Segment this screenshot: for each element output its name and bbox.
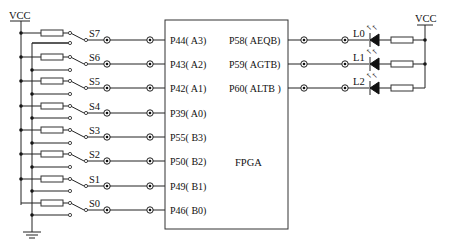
switch-row-s6: S6 <box>19 52 165 72</box>
pin-label: P46( B0) <box>170 205 206 217</box>
fpga-block <box>165 20 288 229</box>
pin-label: P50( B2) <box>170 156 206 168</box>
pin-label: P43( A2) <box>170 59 206 71</box>
svg-text:↖↖: ↖↖ <box>366 24 378 32</box>
switch-row-s0: S0 <box>21 198 165 217</box>
switch-blade-icon <box>72 131 85 138</box>
led-label: L2 <box>353 76 365 87</box>
resistor-icon <box>41 200 63 206</box>
switch-row-s2: S2 <box>19 149 165 169</box>
resistor-icon <box>41 176 63 182</box>
switch-row-s7: S7 <box>19 28 165 43</box>
vcc-right-label: VCC <box>415 13 437 24</box>
led-label: L1 <box>353 52 365 63</box>
resistor-icon <box>391 37 413 43</box>
switch-label: S6 <box>89 52 100 63</box>
switch-row-s3: S3 <box>19 125 165 145</box>
resistor-icon <box>391 85 413 91</box>
pin-label: P42( A1) <box>170 83 206 95</box>
gnd-contact-s7 <box>32 41 72 44</box>
pin-label: P44( A3) <box>170 35 206 47</box>
switch-row-s4: S4 <box>19 101 165 120</box>
ground-icon <box>23 228 41 238</box>
switch-label: S4 <box>89 101 101 112</box>
svg-text:↖↖: ↖↖ <box>366 48 378 56</box>
resistor-icon <box>391 61 413 67</box>
pin-label: P49( B1) <box>170 181 206 193</box>
switch-label: S7 <box>89 28 100 39</box>
pin-label: P55( B3) <box>170 132 206 144</box>
output-pin-label: P60( ALTB ) <box>229 83 281 95</box>
switch-label: S0 <box>89 198 100 209</box>
switch-label: S2 <box>89 149 100 160</box>
output-pin-label: P59( AGTB) <box>229 59 280 71</box>
resistor-icon <box>41 127 63 133</box>
switch-label: S1 <box>89 174 100 185</box>
switch-row-s1: S1 <box>19 174 165 193</box>
led-row-l0: L0 ↖↖ <box>288 24 427 47</box>
switch-blade-icon <box>72 34 85 41</box>
schematic-svg: VCC S7 <box>0 0 450 249</box>
resistor-icon <box>41 30 63 36</box>
resistor-icon <box>41 151 63 157</box>
led-icon: ↖↖ <box>366 24 379 47</box>
resistor-icon <box>41 103 63 109</box>
led-icon: ↖↖ <box>366 72 379 95</box>
switch-blade-icon <box>72 180 85 187</box>
switch-label: S5 <box>89 76 100 87</box>
led-row-l2: L2 ↖↖ <box>288 72 425 95</box>
switch-blade-icon <box>72 58 85 65</box>
pin-label: P39( A0) <box>170 108 206 120</box>
switch-blade-icon <box>72 155 85 162</box>
switch-blade-icon <box>72 82 85 89</box>
switch-blade-icon <box>72 204 85 211</box>
led-label: L0 <box>353 28 365 39</box>
resistor-icon <box>41 78 63 84</box>
fpga-comparator-schematic: VCC S7 <box>0 0 450 249</box>
resistor-icon <box>41 54 63 60</box>
vcc-left-label: VCC <box>9 10 31 21</box>
svg-text:↖↖: ↖↖ <box>366 72 378 80</box>
switch-row-s5: S5 <box>19 76 165 96</box>
fpga-title: FPGA <box>235 157 262 168</box>
led-icon: ↖↖ <box>366 48 379 71</box>
output-pin-label: P58( AEQB) <box>229 35 280 47</box>
switch-blade-icon <box>72 107 85 114</box>
led-row-l1: L1 ↖↖ <box>288 48 427 71</box>
switch-label: S3 <box>89 125 100 136</box>
